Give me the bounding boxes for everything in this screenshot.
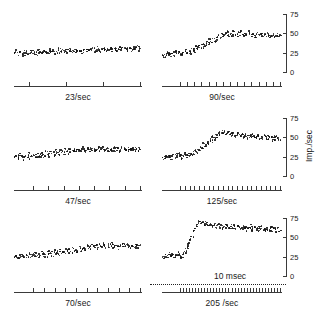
stimulus-tick — [216, 82, 217, 87]
data-point — [64, 154, 65, 155]
data-point — [35, 54, 36, 55]
data-point — [104, 47, 105, 48]
data-point — [201, 222, 202, 223]
data-point — [61, 253, 62, 254]
y-axis-tick — [283, 14, 287, 15]
data-point — [235, 229, 236, 230]
data-point — [194, 52, 195, 53]
stimulus-tick — [280, 82, 281, 87]
y-axis-line — [286, 14, 287, 72]
y-axis-tick-label: 0 — [290, 272, 294, 281]
data-point — [249, 34, 250, 35]
data-point — [140, 48, 141, 49]
data-point — [212, 227, 213, 228]
stimulus-tick — [280, 288, 281, 293]
data-point — [134, 48, 135, 49]
panel-125-sec — [162, 118, 282, 204]
stimulus-tick — [251, 82, 252, 87]
panel-23-sec — [14, 14, 142, 100]
data-point — [32, 156, 33, 157]
data-point — [193, 230, 194, 231]
data-point — [104, 151, 105, 152]
stimulus-tick — [66, 82, 67, 87]
data-point — [75, 151, 76, 152]
data-point — [68, 153, 69, 154]
stimulus-tick — [125, 186, 126, 191]
y-axis-title: Imp./sec — [304, 117, 314, 175]
data-point — [216, 228, 217, 229]
data-point — [85, 248, 86, 249]
data-point — [265, 230, 266, 231]
data-point — [36, 51, 37, 52]
data-point — [51, 153, 52, 154]
data-point — [94, 47, 95, 48]
stimulus-tick — [189, 288, 190, 293]
data-point — [58, 47, 59, 48]
neural-response-figure: 025507502550750255075 Imp./sec 10 msec 2… — [0, 0, 320, 318]
data-point — [88, 50, 89, 51]
data-point — [86, 150, 87, 151]
data-point — [171, 253, 172, 254]
data-point — [54, 53, 55, 54]
data-point — [44, 256, 45, 257]
stimulus-tick — [265, 288, 266, 293]
stimulus-tick — [33, 288, 34, 293]
data-point — [111, 245, 112, 246]
data-point — [186, 157, 187, 158]
data-point — [28, 256, 29, 257]
stimulus-tick — [103, 82, 104, 87]
data-point — [275, 228, 276, 229]
stimulus-tick — [79, 186, 80, 191]
stimulus-tick — [129, 288, 130, 293]
data-point — [136, 46, 137, 47]
data-point — [35, 252, 36, 253]
data-point — [252, 136, 253, 137]
scatter-trace — [162, 118, 282, 176]
stimulus-tick — [238, 288, 239, 293]
data-point — [100, 246, 101, 247]
stimulus-tick — [251, 186, 252, 191]
data-point — [81, 53, 82, 54]
data-point — [256, 33, 257, 34]
data-point — [51, 251, 52, 252]
data-point — [187, 245, 188, 246]
data-point — [269, 37, 270, 38]
data-point — [38, 257, 39, 258]
data-point — [39, 155, 40, 156]
data-point — [185, 49, 186, 50]
data-point — [222, 132, 223, 133]
stimulus-tick — [192, 288, 193, 293]
stimulus-tick — [268, 288, 269, 293]
data-point — [15, 156, 16, 157]
data-point — [237, 135, 238, 136]
stimulus-tick — [64, 186, 65, 191]
y-axis-tick — [283, 218, 287, 219]
data-point — [53, 151, 54, 152]
data-point — [186, 250, 187, 251]
data-point — [206, 44, 207, 45]
stimulus-tick — [213, 288, 214, 293]
data-point — [173, 55, 174, 56]
data-point — [116, 48, 117, 49]
data-point — [247, 139, 248, 140]
data-point — [139, 149, 140, 150]
stimulus-tick — [222, 288, 223, 293]
data-point — [189, 156, 190, 157]
data-point — [23, 160, 24, 161]
data-point — [48, 53, 49, 54]
data-point — [44, 155, 45, 156]
data-point — [219, 227, 220, 228]
stimulus-tick — [108, 288, 109, 293]
data-point — [131, 51, 132, 52]
data-point — [60, 51, 61, 52]
data-point — [217, 36, 218, 37]
stimulus-tick — [273, 82, 274, 87]
stimulus-tick — [228, 186, 229, 191]
stimulus-tick — [44, 288, 45, 293]
data-point — [198, 150, 199, 151]
data-point — [171, 156, 172, 157]
data-point — [198, 223, 199, 224]
stimulus-tick — [109, 186, 110, 191]
data-point — [138, 248, 139, 249]
data-point — [59, 154, 60, 155]
